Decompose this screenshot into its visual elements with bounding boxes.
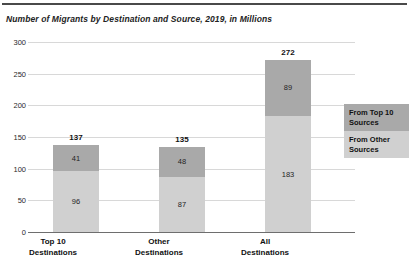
chart-title: Number of Migrants by Destination and So… <box>6 14 272 24</box>
plot-area: 137 41 96 135 48 87 272 89 183 <box>28 42 355 232</box>
x-label-line1: Other <box>113 237 205 248</box>
y-tick-0: 0 <box>0 228 26 237</box>
legend-label: From Other Sources <box>349 135 390 154</box>
y-axis: 300 250 200 150 100 50 0 <box>0 42 26 232</box>
x-label-line1: Top 10 <box>7 237 99 248</box>
bar-all-destinations[interactable]: 272 89 183 <box>265 60 311 232</box>
legend-label: From Top 10 Sources <box>349 108 393 127</box>
legend-item-from-top-10-sources[interactable]: From Top 10 Sources <box>344 104 409 131</box>
segment-value-label: 87 <box>178 200 186 209</box>
bar-segment-from-top-10-sources[interactable]: 41 <box>53 145 99 171</box>
x-label-line2: Destinations <box>113 248 205 259</box>
bar-segment-from-other-sources[interactable]: 87 <box>159 177 205 232</box>
x-label-line2: Destinations <box>7 248 99 259</box>
y-tick-50: 50 <box>0 196 26 205</box>
bar-segment-from-top-10-sources[interactable]: 89 <box>265 60 311 116</box>
x-label-line2: Destinations <box>219 248 311 259</box>
x-axis-line <box>28 232 355 233</box>
bar-segment-from-other-sources[interactable]: 183 <box>265 116 311 232</box>
header-rule <box>2 3 407 5</box>
bar-top-10-destinations[interactable]: 137 41 96 <box>53 145 99 232</box>
bar-segment-from-other-sources[interactable]: 96 <box>53 171 99 232</box>
bar-other-destinations[interactable]: 135 48 87 <box>159 147 205 233</box>
x-label-all-destinations: All Destinations <box>219 237 311 258</box>
segment-value-label: 41 <box>72 154 80 163</box>
legend: From Top 10 Sources From Other Sources <box>344 104 409 158</box>
bar-segment-from-top-10-sources[interactable]: 48 <box>159 147 205 177</box>
y-tick-100: 100 <box>0 164 26 173</box>
x-label-line1: All <box>219 237 311 248</box>
bar-total-label: 137 <box>53 133 99 142</box>
legend-item-from-other-sources[interactable]: From Other Sources <box>344 131 409 158</box>
y-tick-150: 150 <box>0 133 26 142</box>
bar-total-label: 135 <box>159 135 205 144</box>
bar-total-label: 272 <box>265 48 311 57</box>
y-tick-300: 300 <box>0 38 26 47</box>
segment-value-label: 96 <box>72 197 80 206</box>
segment-value-label: 89 <box>284 83 292 92</box>
x-label-other-destinations: Other Destinations <box>113 237 205 258</box>
y-tick-250: 250 <box>0 69 26 78</box>
segment-value-label: 48 <box>178 157 186 166</box>
gridline-300 <box>28 42 355 43</box>
segment-value-label: 183 <box>282 170 295 179</box>
y-tick-200: 200 <box>0 101 26 110</box>
x-label-top-10-destinations: Top 10 Destinations <box>7 237 99 258</box>
